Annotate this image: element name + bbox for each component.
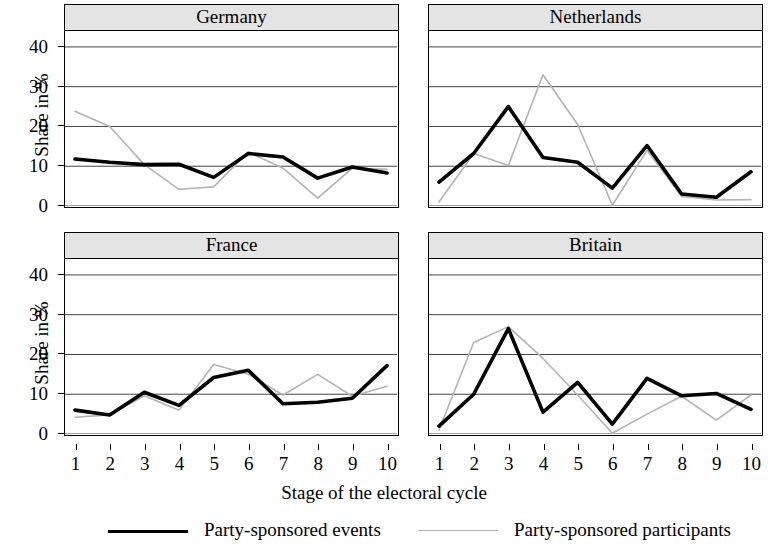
panel-britain: Britain	[428, 232, 763, 436]
x-tick-mark	[318, 444, 319, 450]
panel-plot-netherlands	[429, 31, 761, 206]
panel-netherlands: Netherlands	[428, 4, 763, 208]
series-line-events	[75, 366, 387, 415]
trellis-chart-figure: Share in % Share in % 010203040 01020304…	[0, 0, 768, 554]
x-tick-mark	[110, 444, 111, 450]
panel-plot-britain	[429, 259, 761, 434]
y-tick-label: 10	[22, 384, 48, 403]
panel-germany: Germany	[64, 4, 399, 208]
x-tick-label: 9	[340, 454, 366, 473]
y-tick-label: 0	[22, 196, 48, 215]
x-tick-label: 2	[97, 454, 123, 473]
x-tick-label: 3	[496, 454, 522, 473]
x-tick-label: 1	[63, 454, 89, 473]
panel-title-france: France	[65, 233, 398, 259]
panel-title-germany: Germany	[65, 5, 398, 31]
x-tick-mark	[249, 444, 250, 450]
y-tick-label: 30	[22, 77, 48, 96]
y-tick-label: 30	[22, 305, 48, 324]
chart-legend: Party-sponsored events Party-sponsored p…	[0, 515, 768, 545]
x-tick-label: 4	[167, 454, 193, 473]
x-tick-label: 1	[427, 454, 453, 473]
series-line-participants	[75, 111, 387, 198]
x-tick-mark	[388, 444, 389, 450]
legend-line-swatch-events	[108, 530, 188, 533]
y-tick-label: 40	[22, 265, 48, 284]
x-tick-mark	[284, 444, 285, 450]
x-tick-mark	[474, 444, 475, 450]
plot-area-germany	[65, 31, 398, 207]
x-tick-mark	[76, 444, 77, 450]
x-tick-label: 10	[739, 454, 765, 473]
x-tick-label: 5	[565, 454, 591, 473]
x-tick-mark	[717, 444, 718, 450]
y-tick-label: 10	[22, 156, 48, 175]
x-tick-label: 7	[271, 454, 297, 473]
y-tick-label: 40	[22, 37, 48, 56]
x-tick-mark	[509, 444, 510, 450]
plot-area-britain	[429, 259, 762, 435]
legend-line-swatch-participants	[418, 530, 498, 531]
x-tick-label: 9	[704, 454, 730, 473]
x-tick-label: 6	[600, 454, 626, 473]
series-line-participants	[439, 327, 751, 434]
plot-area-netherlands	[429, 31, 762, 207]
panel-plot-germany	[65, 31, 397, 206]
x-tick-mark	[648, 444, 649, 450]
y-tick-label: 20	[22, 116, 48, 135]
legend-label-participants: Party-sponsored participants	[514, 519, 731, 541]
x-tick-mark	[752, 444, 753, 450]
series-line-events	[439, 107, 751, 198]
panel-title-netherlands: Netherlands	[429, 5, 762, 31]
y-tick-label: 0	[22, 424, 48, 443]
panel-france: France	[64, 232, 399, 436]
x-axis-title: Stage of the electoral cycle	[0, 482, 768, 504]
x-tick-label: 4	[531, 454, 557, 473]
x-tick-label: 8	[305, 454, 331, 473]
x-tick-mark	[180, 444, 181, 450]
panel-title-britain: Britain	[429, 233, 762, 259]
x-tick-label: 2	[461, 454, 487, 473]
x-tick-mark	[353, 444, 354, 450]
panel-plot-france	[65, 259, 397, 434]
x-tick-mark	[544, 444, 545, 450]
y-tick-label: 20	[22, 344, 48, 363]
x-tick-mark	[440, 444, 441, 450]
x-tick-label: 8	[669, 454, 695, 473]
x-tick-mark	[682, 444, 683, 450]
x-tick-mark	[613, 444, 614, 450]
x-tick-label: 3	[132, 454, 158, 473]
x-tick-label: 7	[635, 454, 661, 473]
x-tick-mark	[145, 444, 146, 450]
x-tick-label: 5	[201, 454, 227, 473]
legend-label-events: Party-sponsored events	[204, 519, 381, 541]
plot-area-france	[65, 259, 398, 435]
x-tick-label: 10	[375, 454, 401, 473]
x-tick-mark	[214, 444, 215, 450]
x-tick-mark	[578, 444, 579, 450]
x-tick-label: 6	[236, 454, 262, 473]
